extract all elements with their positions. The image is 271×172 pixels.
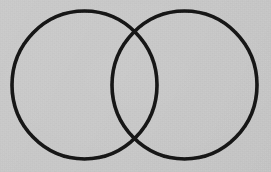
two-circle-venn-figure: Two Overlapping Circles Two identical bl… [0,0,271,172]
image-canvas: Two Overlapping Circles Two identical bl… [0,0,271,172]
left-circle [12,11,157,159]
right-circle [112,11,257,159]
